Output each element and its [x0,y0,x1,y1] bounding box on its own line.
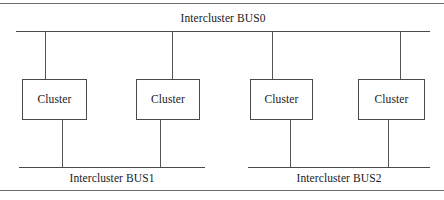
connector-cluster-2-to-bus1 [160,120,161,167]
bottom-divider-rule [0,190,444,191]
bus1-label: Intercluster BUS1 [19,172,205,184]
intercluster-bus-diagram: Intercluster BUS0 Cluster Cluster Cluste… [0,0,444,200]
cluster-box-1: Cluster [22,79,87,120]
connector-cluster-1-to-bus1 [62,120,63,167]
cluster-label-1: Cluster [38,94,72,106]
bus2-line [248,167,430,168]
top-divider-rule [0,3,444,4]
connector-bus0-to-cluster-3 [272,31,273,79]
bus0-line [16,31,430,32]
cluster-box-3: Cluster [250,79,313,120]
cluster-label-2: Cluster [151,94,185,106]
cluster-box-2: Cluster [136,79,200,120]
bus1-line [19,167,205,168]
cluster-label-4: Cluster [375,94,409,106]
connector-cluster-3-to-bus2 [290,120,291,167]
connector-bus0-to-cluster-1 [45,31,46,79]
bus2-label: Intercluster BUS2 [248,172,430,184]
cluster-label-3: Cluster [265,94,299,106]
connector-bus0-to-cluster-2 [172,31,173,79]
connector-cluster-4-to-bus2 [388,120,389,167]
cluster-box-4: Cluster [358,79,425,120]
bus0-label: Intercluster BUS0 [16,12,430,24]
connector-bus0-to-cluster-4 [400,31,401,79]
